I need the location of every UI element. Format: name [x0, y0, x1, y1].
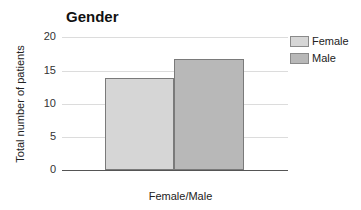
x-axis: [62, 170, 288, 171]
x-axis-label: Female/Male: [0, 190, 361, 202]
legend-swatch-male: [290, 53, 309, 64]
y-tick-20: 20: [36, 30, 56, 42]
bar-male: [174, 59, 244, 170]
gridline-20: [62, 37, 288, 38]
y-tick-10: 10: [36, 97, 56, 109]
x-axis-label-text: Female/Male: [149, 190, 213, 202]
y-tick-0: 0: [36, 163, 56, 175]
bar-female: [105, 78, 174, 170]
chart-title: Gender: [66, 8, 119, 25]
legend-item-male: Male: [290, 52, 336, 64]
y-axis-label: Total number of patients: [14, 45, 26, 162]
legend-swatch-female: [290, 36, 309, 47]
legend-label-male: Male: [312, 52, 336, 64]
legend-label-female: Female: [312, 35, 349, 47]
y-tick-15: 15: [36, 64, 56, 76]
y-tick-5: 5: [36, 130, 56, 142]
legend-item-female: Female: [290, 35, 349, 47]
